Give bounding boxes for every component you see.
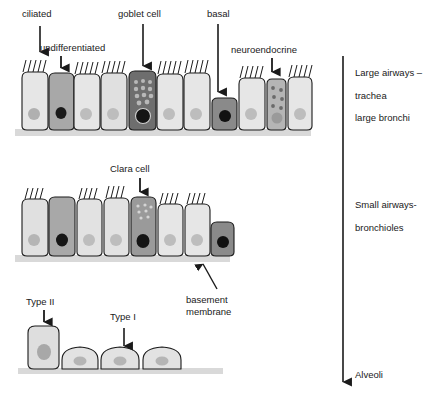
cell-ciliated	[101, 61, 127, 130]
region-label-large-airways-line1: Large airways –	[355, 67, 423, 78]
row3-cells	[28, 326, 181, 369]
region-label-small-airways-line1: Small airways-	[355, 199, 417, 210]
airway-epithelium-diagram: ciliated undifferentiated goblet cell ba…	[0, 0, 443, 398]
label-type-two: Type II	[26, 296, 55, 307]
cilia	[106, 186, 124, 198]
cell-clara	[131, 197, 156, 256]
cell-ciliated	[185, 193, 210, 256]
cell-basal	[211, 222, 234, 256]
cilia	[102, 61, 125, 73]
cilia	[185, 60, 208, 73]
cilia	[160, 193, 178, 204]
cell-type-I	[101, 347, 139, 369]
cilia	[23, 60, 46, 72]
region-label-small-airways-line2: bronchioles	[355, 222, 404, 233]
cilia	[79, 188, 97, 199]
cilia	[289, 65, 312, 77]
cell-ciliated	[77, 188, 102, 256]
region-label-alveoli: Alveoli	[355, 369, 383, 380]
label-goblet-cell: goblet cell	[118, 8, 161, 19]
cell-ciliated	[74, 62, 100, 130]
diagram-canvas: ciliated undifferentiated goblet cell ba…	[0, 0, 443, 398]
cilia	[187, 193, 205, 204]
label-basement-membrane-line2: membrane	[186, 306, 231, 317]
cell-undifferentiated	[49, 197, 75, 256]
cell-ciliated	[288, 65, 312, 130]
cilia	[25, 188, 43, 199]
label-basal: basal	[207, 8, 230, 19]
cell-ciliated	[239, 66, 265, 130]
cell-ciliated	[157, 61, 183, 130]
label-clara-cell: Clara cell	[110, 163, 150, 174]
cell-ciliated	[184, 60, 210, 130]
cell-ciliated	[158, 193, 183, 256]
cell-type-II	[28, 326, 59, 369]
label-undifferentiated: undifferentiated	[40, 42, 105, 53]
cell-ciliated	[22, 188, 48, 256]
row2-cells	[22, 186, 234, 256]
region-label-large-airways-line3: large bronchi	[355, 112, 410, 123]
row1-cells	[22, 60, 312, 130]
cilia	[75, 62, 98, 74]
label-neuroendocrine: neuroendocrine	[231, 44, 297, 55]
cilia	[240, 66, 263, 78]
cell-type-I	[143, 347, 181, 369]
label-ciliated: ciliated	[22, 8, 52, 19]
label-type-one: Type I	[110, 311, 136, 322]
cilia	[158, 61, 181, 74]
cell-undifferentiated	[49, 73, 74, 130]
cell-ciliated	[104, 186, 129, 256]
cell-type-I	[62, 347, 98, 369]
cell-basal	[212, 98, 237, 130]
region-label-large-airways-line2: trachea	[355, 90, 387, 101]
cell-neuroendocrine	[267, 79, 286, 130]
cell-goblet	[129, 71, 156, 130]
cell-ciliated	[22, 60, 48, 130]
arrow-basement-membrane	[203, 264, 217, 289]
label-basement-membrane-line1: basement	[186, 294, 228, 305]
